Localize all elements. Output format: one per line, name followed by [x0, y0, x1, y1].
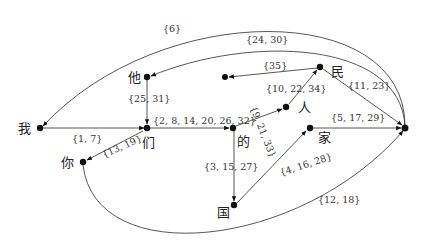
node-label-min: 民 [331, 64, 344, 79]
node-men [144, 125, 150, 131]
edge-label-men-de: {2, 8, 14, 20, 26, 32} [153, 115, 256, 126]
node-label-wo: 我 [18, 121, 31, 136]
node-loose [222, 74, 228, 80]
node-label-ni: 你 [61, 155, 74, 170]
edge-label-ren-min: {10, 22, 34} [266, 83, 326, 94]
edge-label-men-ni: {13, 19} [100, 133, 143, 160]
node-hub [402, 125, 409, 132]
node-jia [307, 125, 313, 131]
node-ta [144, 74, 150, 80]
edge-label-wo-men: {1, 7} [72, 133, 102, 144]
node-label-men: 们 [142, 135, 155, 150]
edge-label-min-hub: {11, 23} [348, 80, 390, 91]
node-label-jia: 家 [318, 130, 331, 145]
edge-label-ta-men: {25, 31} [128, 93, 170, 104]
node-min [317, 64, 323, 70]
edge-label-min-loose: {35} [263, 60, 287, 71]
edge-label-de-guo: {3, 15, 27} [204, 161, 258, 172]
edge-label-ni-hub: {12, 18} [318, 194, 360, 205]
node-ni [80, 159, 86, 165]
node-ren [283, 104, 289, 110]
edge-label-de-ren: {9, 21, 33} [248, 105, 279, 160]
edge-label-guo-jia: {4, 16, 28} [278, 151, 333, 178]
edge-label-hub-wo: {6} [163, 23, 181, 34]
word-graph-diagram: 我 他 们 你 的 人 民 家 国 {1, 7} {25, 31} {2, 8,… [0, 0, 428, 250]
node-wo [37, 125, 43, 131]
edge-label-hub-ta: {24, 30} [246, 34, 288, 45]
node-label-guo: 国 [217, 205, 230, 220]
node-label-ta: 他 [128, 70, 141, 85]
edge-label-jia-hub: {5, 17, 29} [331, 112, 385, 123]
node-label-ren: 人 [298, 100, 311, 115]
node-label-de: 的 [237, 134, 250, 149]
node-guo [231, 202, 237, 208]
